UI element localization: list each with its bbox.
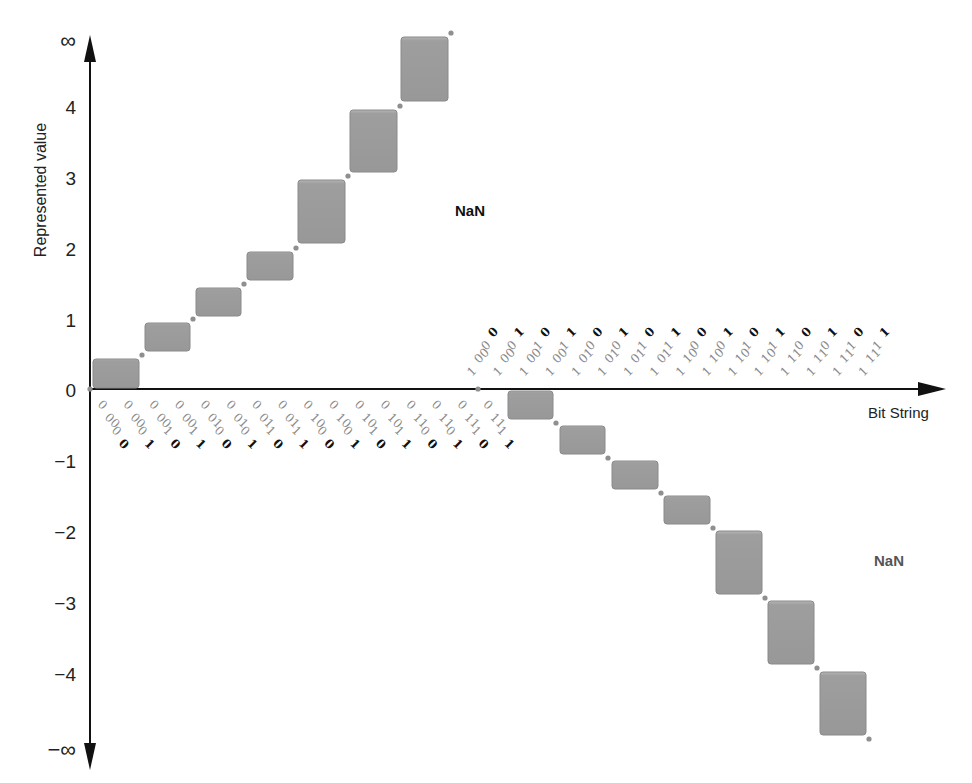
bit-chunk: 0 — [352, 397, 367, 412]
negative-step-box: -0.5 → -1 — [560, 426, 605, 454]
bit-chunk: 0 — [172, 397, 187, 412]
y-tick-label: −2 — [54, 522, 76, 543]
y-tick-label: −4 — [54, 664, 76, 685]
x-axis-arrow-icon — [918, 382, 946, 396]
bit-chunk: 1 — [501, 436, 517, 452]
bit-chunk: 0 — [798, 324, 814, 340]
bit-chunk: 1 — [511, 324, 527, 340]
bit-chunk: 0 — [537, 324, 553, 340]
bit-chunk: 1 — [720, 324, 736, 340]
y-tick-label: 0 — [65, 380, 76, 401]
step-dot — [345, 173, 350, 178]
bit-chunk: 0 — [198, 397, 213, 412]
negative-step-box: -1 → -1.5 — [612, 461, 658, 489]
bit-chunk: 0 — [851, 324, 867, 340]
bit-chunk: 1 — [490, 364, 505, 379]
step-dot — [190, 316, 195, 321]
bit-chunk: 0 — [424, 436, 440, 452]
bit-chunk: 0 — [480, 397, 495, 412]
bit-chunk: 0 — [321, 436, 337, 452]
bit-chunk: 1 — [856, 364, 871, 379]
bit-chunk: 0 — [249, 397, 264, 412]
y-tick-label: −3 — [54, 593, 76, 614]
bit-chunk: 1 — [772, 324, 788, 340]
y-axis-up-arrow-icon — [84, 35, 96, 62]
bit-string-value-diagram: ∞43210−1−2−3−4−∞ Represented value Bit S… — [0, 0, 972, 783]
origin-dot — [87, 386, 92, 391]
bit-chunk: 1 — [464, 364, 479, 379]
bit-chunk: 1 — [725, 364, 740, 379]
bit-chunk: 1 — [193, 436, 209, 452]
y-tick-labels: ∞43210−1−2−3−4−∞ — [47, 28, 76, 762]
positive-step-box: 0.5 → 1 — [145, 323, 190, 351]
bit-chunk: 1 — [595, 364, 610, 379]
bit-chunk: 1 — [673, 364, 688, 379]
bit-chunk: 0 — [746, 324, 762, 340]
step-dot — [605, 455, 610, 460]
step-dot — [814, 665, 819, 670]
step-dot — [293, 245, 298, 250]
bit-chunk: 0 — [219, 436, 235, 452]
bit-chunk: 0 — [326, 397, 341, 412]
bit-chunk: 0 — [121, 397, 136, 412]
y-tick-label: 4 — [65, 97, 76, 118]
positive-step-box: 0 → 0.5 — [93, 359, 139, 388]
bit-chunk: 0 — [378, 397, 393, 412]
bit-chunk: 0 — [476, 436, 492, 452]
y-tick-label: −∞ — [47, 737, 76, 762]
positive-step-box: 4 → ∞ — [401, 37, 448, 101]
positive-step-box: 3 → 4 — [350, 110, 397, 172]
bit-chunk: 0 — [590, 324, 606, 340]
bit-chunk: 1 — [244, 436, 260, 452]
bit-chunk: 1 — [751, 364, 766, 379]
y-axis-label: Represented value — [32, 123, 49, 257]
negative-zero-dot — [475, 386, 480, 391]
step-dot — [553, 420, 558, 425]
bit-chunk: 1 — [777, 364, 792, 379]
step-dot — [762, 595, 767, 600]
y-tick-label: −1 — [54, 451, 76, 472]
step-dot — [658, 490, 663, 495]
bit-chunk: 0 — [455, 397, 470, 412]
bit-chunk: 1 — [347, 436, 363, 452]
y-tick-label: 3 — [65, 168, 76, 189]
bit-chunk: 1 — [399, 436, 415, 452]
bit-chunk: 1 — [296, 436, 312, 452]
bit-chunk: 0 — [373, 436, 389, 452]
bit-chunk: 1 — [804, 364, 819, 379]
step-dot — [710, 525, 715, 530]
bit-chunk: 0 — [116, 436, 132, 452]
bit-chunk: 1 — [564, 324, 580, 340]
step-dot — [241, 281, 246, 286]
bit-chunk: 0 — [300, 397, 315, 412]
y-tick-label: 1 — [65, 310, 76, 331]
bit-chunk: 1 — [543, 364, 558, 379]
bit-chunk: 0 — [275, 397, 290, 412]
positive-step-box: 2 → 3 — [298, 180, 345, 243]
bit-chunk: 0 — [642, 324, 658, 340]
step-dot — [139, 352, 144, 357]
negative-step-box: 0 → -0.5 — [508, 391, 553, 419]
bit-chunk: 1 — [142, 436, 158, 452]
bit-chunk: 0 — [167, 436, 183, 452]
y-axis-down-arrow-icon — [84, 743, 96, 770]
nan-label-upper: NaN — [455, 202, 485, 219]
bit-chunk: 0 — [95, 397, 110, 412]
bit-chunk: 0 — [429, 397, 444, 412]
bit-chunk: 0 — [270, 436, 286, 452]
bit-chunk: 1 — [830, 364, 845, 379]
bit-chunk: 1 — [450, 436, 466, 452]
step-boxes: 0 → 0.50.5 → 11 → 1.51.5 → 22 → 33 → 44 … — [87, 30, 871, 741]
y-tick-label: 2 — [65, 239, 76, 260]
negative-step-box: -1.5 → -2 — [664, 496, 710, 524]
bit-chunk: 1 — [825, 324, 841, 340]
bit-chunk: 0 — [403, 397, 418, 412]
bit-chunk: 1 — [621, 364, 636, 379]
bit-chunk: 0 — [694, 324, 710, 340]
y-tick-label: ∞ — [60, 28, 76, 53]
bit-chunk: 0 — [146, 397, 161, 412]
x-axis-label: Bit String — [868, 404, 929, 421]
bit-chunk: 1 — [516, 364, 531, 379]
nan-label-lower: NaN — [874, 552, 904, 569]
bit-chunk: 1 — [877, 324, 893, 340]
